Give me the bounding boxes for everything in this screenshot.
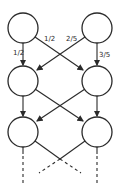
node-row1-right [82,13,112,43]
label-right-to-left: 2/5 [66,35,77,43]
edge-left-to-right-3-continued [60,159,81,173]
edge-right-to-left-3 [60,141,85,159]
edge-right-to-left-2 [37,89,85,121]
node-row3-right [82,117,112,147]
edge-left-to-right-3 [35,141,60,159]
node-row3-left [8,117,38,147]
label-left-to-right: 1/2 [44,35,55,43]
edge-right-to-left-3-continued [39,159,60,173]
node-row1-left [8,13,38,43]
node-row2-right [82,66,112,96]
label-left-stay: 1/2 [13,49,24,57]
trellis-diagram: 1/2 1/2 2/5 3/5 [0,0,123,190]
label-right-stay: 3/5 [99,51,110,59]
node-row2-left [8,66,38,96]
edge-left-to-right-2 [35,89,83,121]
